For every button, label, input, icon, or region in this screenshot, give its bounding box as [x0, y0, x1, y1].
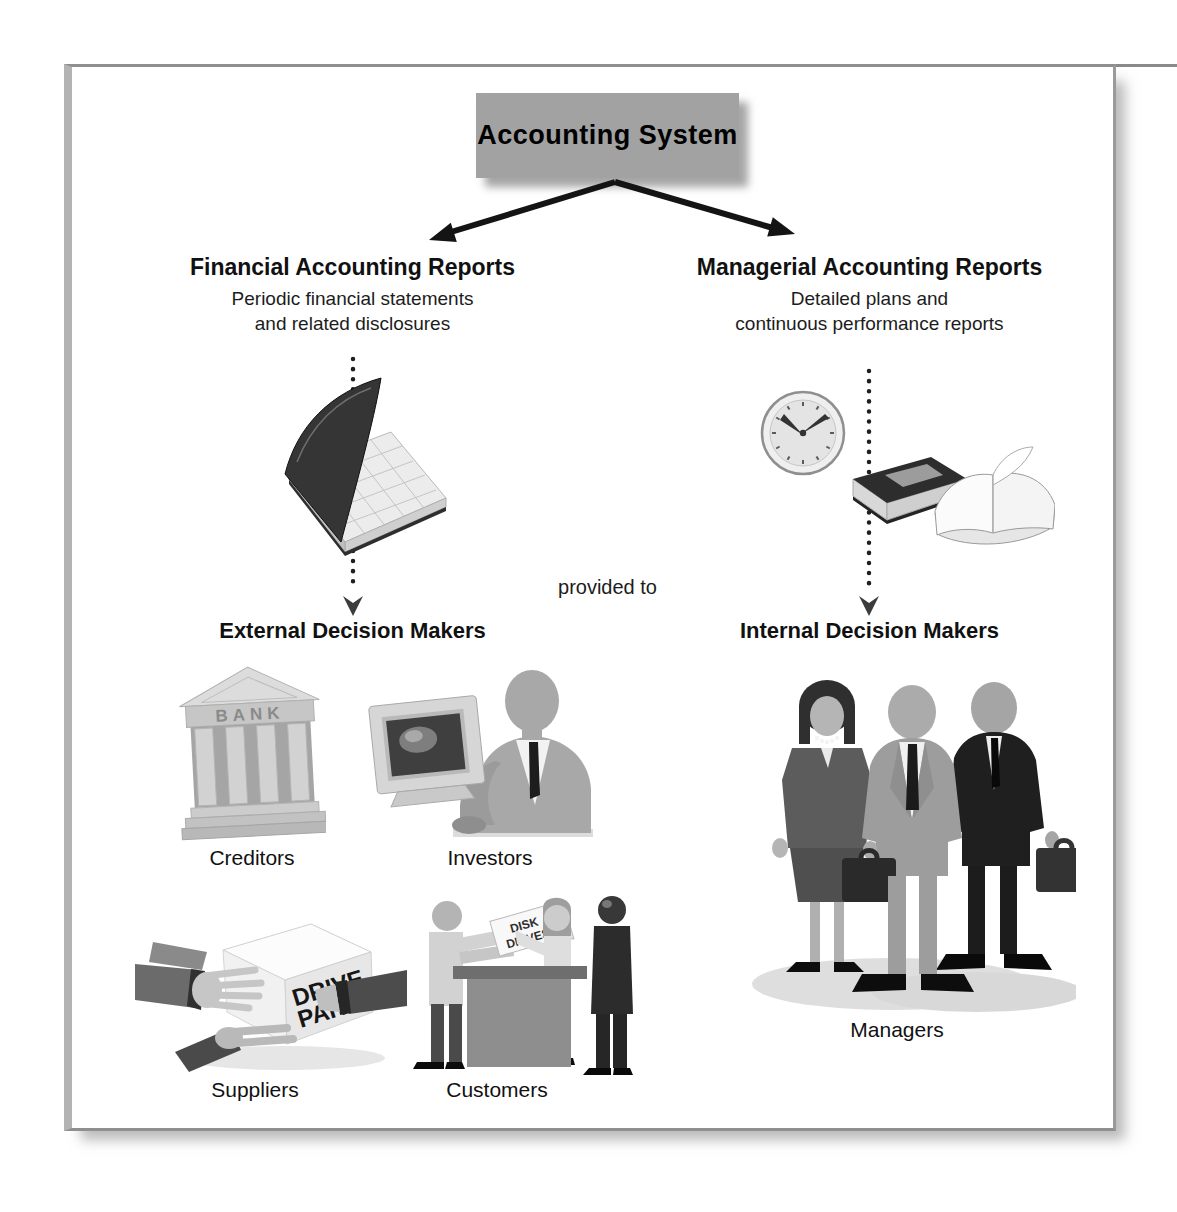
- store-counter-icon: DISK DRIVES: [405, 886, 647, 1076]
- right-branch-desc-line1: Detailed plans and: [672, 287, 1067, 312]
- internal-decision-makers-heading: Internal Decision Makers: [672, 618, 1067, 644]
- title-box: Accounting System: [476, 93, 739, 178]
- right-branch-desc-line2: continuous performance reports: [672, 312, 1067, 337]
- clock-icon: [762, 392, 844, 474]
- customer-man: [583, 896, 633, 1075]
- figure-title: Accounting System: [477, 120, 738, 151]
- customers-label: Customers: [417, 1078, 577, 1102]
- left-branch-desc-line1: Periodic financial statements: [155, 287, 550, 312]
- provided-to-label: provided to: [540, 576, 675, 599]
- left-arrowhead-icon: [429, 223, 457, 242]
- external-decision-makers-heading: External Decision Makers: [155, 618, 550, 644]
- investor-computer-icon: [365, 665, 595, 841]
- three-businesspeople-icon: [742, 668, 1076, 1012]
- counter-top: [453, 966, 587, 979]
- down-arrowhead-icon: [343, 596, 363, 616]
- left-branch-heading: Financial Accounting Reports: [155, 254, 550, 280]
- clock-and-books-icon: [735, 383, 1055, 555]
- ledger-book-icon: [283, 370, 455, 558]
- figure-page: Accounting System Financial Accounting R…: [0, 0, 1177, 1212]
- right-branch-heading: Managerial Accounting Reports: [672, 254, 1067, 280]
- right-arrowhead-icon: [767, 217, 795, 236]
- branch-arrows: [403, 170, 823, 250]
- left-branch-heading-block: Financial Accounting Reports Periodic fi…: [155, 254, 550, 337]
- bank-building-icon: BANK: [178, 663, 326, 845]
- bank-sign-text: BANK: [215, 703, 285, 726]
- page-rule: [1110, 64, 1177, 67]
- hands-passing-box-icon: DRIVE PARTS: [135, 912, 407, 1074]
- counter-body: [467, 979, 571, 1067]
- creditors-label: Creditors: [172, 846, 332, 870]
- managers-label: Managers: [817, 1018, 977, 1042]
- open-book-icon: [935, 447, 1055, 544]
- investors-label: Investors: [410, 846, 570, 870]
- left-branch-desc-line2: and related disclosures: [155, 312, 550, 337]
- down-arrowhead-icon: [859, 596, 879, 616]
- computer-monitor: [368, 695, 486, 808]
- suppliers-label: Suppliers: [175, 1078, 335, 1102]
- right-branch-heading-block: Managerial Accounting Reports Detailed p…: [672, 254, 1067, 337]
